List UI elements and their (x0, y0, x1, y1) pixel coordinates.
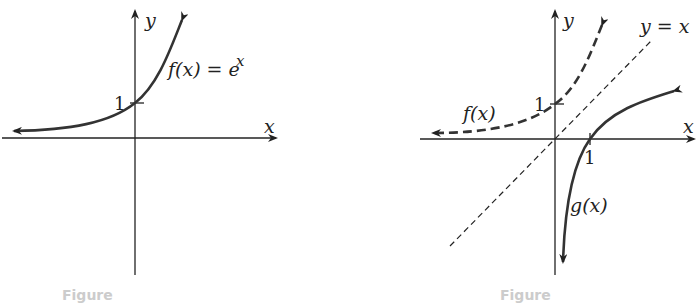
g-curve (563, 91, 674, 262)
x-axis-label: x (264, 115, 275, 137)
figure-exponential: y x 1 f(x) = e x Figure (0, 0, 290, 297)
exponential-graph: y x 1 f(x) = e x (0, 0, 290, 297)
figure-caption-left: Figure (62, 287, 113, 303)
y-axis-label: y (144, 9, 156, 31)
figure-inverse-functions: y x y = x 1 1 f(x) g(x) Figure (400, 0, 696, 297)
figure-caption-right: Figure (500, 287, 551, 303)
x-tick-label: 1 (584, 147, 595, 168)
exp-curve (14, 20, 182, 131)
curve-label: f(x) = e (166, 58, 240, 80)
g-label: g(x) (570, 194, 608, 216)
y-axis-label: y (562, 9, 574, 31)
identity-line (450, 40, 652, 246)
f-label: f(x) (461, 102, 496, 124)
y-tick-label: 1 (114, 93, 125, 114)
y-tick-label: 1 (534, 94, 545, 115)
curve-label-exponent: x (236, 52, 245, 70)
identity-label: y = x (639, 15, 690, 37)
inverse-graph: y x y = x 1 1 f(x) g(x) (400, 0, 696, 297)
x-axis-label: x (683, 115, 694, 137)
